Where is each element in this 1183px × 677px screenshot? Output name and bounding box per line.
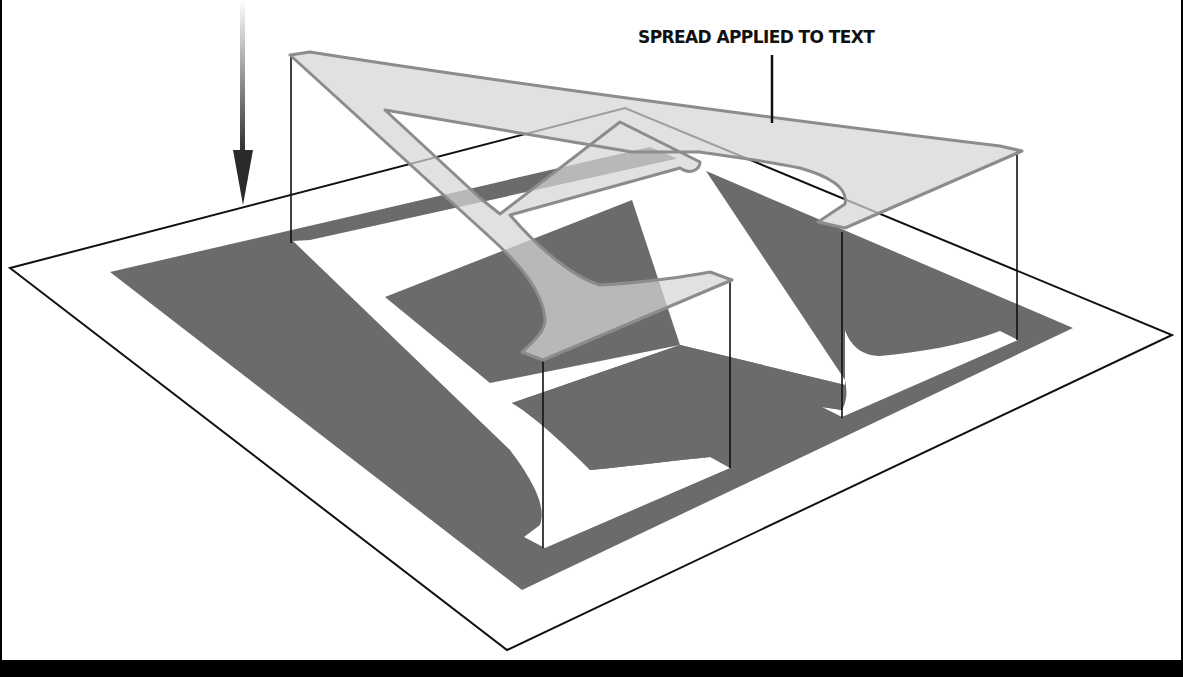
spread-diagram [2,0,1181,660]
bottom-frame-band [0,660,1183,677]
down-arrow-icon [233,150,253,205]
arrow-shaft [240,0,245,155]
figure-canvas: SPREAD APPLIED TO TEXT [2,0,1181,660]
callout-label: SPREAD APPLIED TO TEXT [638,27,874,47]
